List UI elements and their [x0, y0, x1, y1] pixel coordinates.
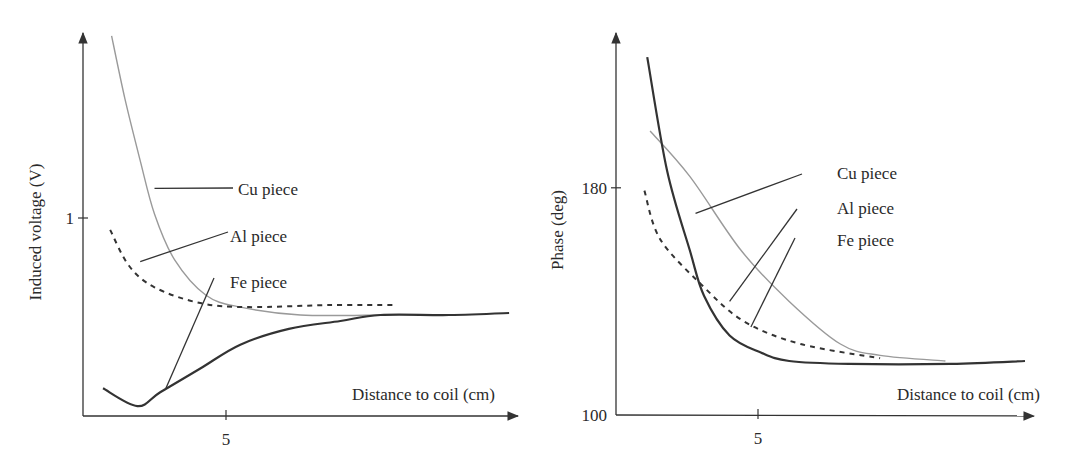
series-layer — [103, 36, 509, 406]
figure: 51 Distance to coil (cm) Induced voltage… — [0, 0, 1089, 472]
annotation-leader-line — [751, 238, 795, 327]
x-axis — [616, 415, 1034, 416]
annotation-label-cu-piece: Cu piece — [837, 164, 897, 183]
y-tick-label: 100 — [582, 406, 608, 425]
annotation-label-fe-piece: Fe piece — [230, 273, 287, 292]
phase-chart: 5100180 Distance to coil (cm) Phase (deg… — [548, 33, 1040, 448]
tick-layer: 5100180 — [582, 179, 763, 448]
y-tick-label: 180 — [582, 179, 608, 198]
x-tick-label: 5 — [754, 429, 763, 448]
x-tick-label: 5 — [222, 430, 231, 449]
annotation-label-al-piece: Al piece — [230, 227, 287, 246]
series-line-cu-piece — [650, 131, 945, 361]
x-axis-label: Distance to coil (cm) — [352, 385, 495, 404]
annotation-label-al-piece: Al piece — [837, 199, 894, 218]
y-axis-label: Induced voltage (V) — [26, 164, 45, 301]
annotation-leader-line — [140, 232, 228, 262]
annotation-leader-line — [696, 174, 802, 213]
annotation-label-fe-piece: Fe piece — [837, 231, 894, 250]
annotation-layer: Cu pieceAl pieceFe piece — [696, 164, 897, 327]
y-axis-label: Phase (deg) — [548, 190, 567, 270]
y-tick-label: 1 — [66, 209, 75, 228]
annotation-label-cu-piece: Cu piece — [238, 180, 298, 199]
induced-voltage-chart: 51 Distance to coil (cm) Induced voltage… — [26, 33, 518, 449]
x-axis-label: Distance to coil (cm) — [897, 385, 1040, 404]
tick-layer: 51 — [66, 209, 231, 449]
